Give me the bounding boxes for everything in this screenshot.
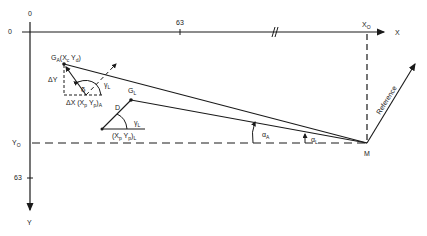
m-label: M (364, 150, 370, 157)
d-label: D (115, 104, 120, 111)
delta-x-label: ΔX (Xp Yp)A (66, 99, 103, 108)
alpha-a-label: αA (262, 131, 270, 140)
reference-arrow (367, 64, 415, 143)
gl-label: GL (128, 87, 136, 96)
gamma-lower-label: γL (134, 119, 141, 128)
origin-x-label: 0 (28, 10, 32, 17)
y-axis-label: Y (27, 219, 32, 226)
alpha-a-arc (252, 122, 255, 143)
x0-label: XO (362, 21, 371, 30)
xp-yp-l-point (101, 128, 104, 131)
alpha-l-label: αL (311, 136, 318, 145)
ga-direction-dashed-arrow (86, 64, 116, 95)
line-gl-to-m (131, 100, 367, 143)
gamma-lower-arc (117, 114, 127, 129)
geometry-diagram: 0 0 63 63 X Y XO YO Reference M GA(Xc Yd… (0, 0, 427, 236)
delta-angle-label: δ (81, 85, 86, 94)
gamma-upper-label: γL (104, 81, 111, 90)
ga-label: GA(Xc Yd) (51, 54, 81, 63)
x-tick-label: 63 (176, 19, 184, 26)
delta-y-label: ΔY (48, 76, 58, 83)
y0-label: YO (12, 139, 21, 148)
xp-yp-l-label: (Xp Yp)L (112, 132, 136, 141)
gamma-upper-arc (96, 84, 101, 95)
origin-y-label: 0 (8, 28, 12, 35)
delta-angle-arc (78, 80, 96, 84)
line-ga-to-m (64, 64, 367, 143)
y-tick-label: 63 (14, 174, 22, 181)
x-axis-label: X (395, 29, 400, 36)
